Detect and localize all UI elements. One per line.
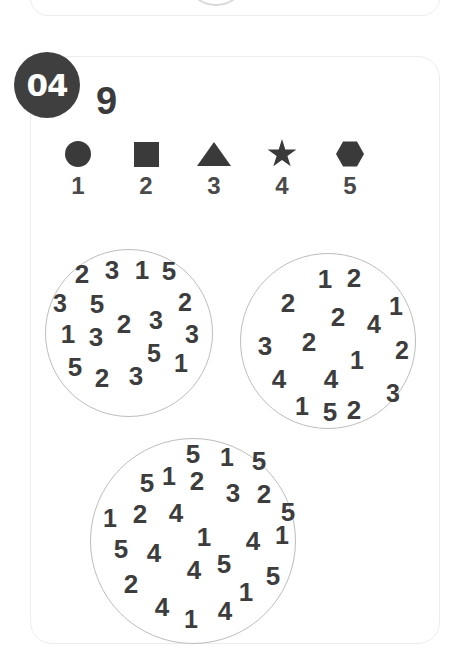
digit: 3 bbox=[89, 324, 103, 350]
shape-legend: 12345 bbox=[44, 138, 418, 200]
digit: 2 bbox=[281, 290, 295, 316]
digit: 2 bbox=[95, 365, 109, 391]
digit: 5 bbox=[140, 470, 154, 496]
digit: 4 bbox=[155, 594, 169, 620]
digit: 1 bbox=[61, 321, 75, 347]
square-icon-glyph bbox=[134, 142, 159, 167]
digit: 2 bbox=[124, 571, 138, 597]
digit: 4 bbox=[324, 366, 338, 392]
card-number-badge: 04 bbox=[14, 52, 80, 118]
digit: 5 bbox=[162, 258, 176, 284]
digit: 3 bbox=[105, 257, 119, 283]
digit: 3 bbox=[258, 333, 272, 359]
digit: 1 bbox=[197, 524, 211, 550]
triangle-icon bbox=[197, 138, 231, 170]
digit: 4 bbox=[169, 500, 183, 526]
digit: 5 bbox=[323, 399, 337, 425]
digit: 5 bbox=[252, 448, 266, 474]
legend-item-3: 3 bbox=[180, 138, 248, 200]
legend-item-5: 5 bbox=[316, 138, 384, 200]
digit: 1 bbox=[184, 607, 198, 632]
digit: 2 bbox=[257, 481, 271, 507]
digit: 2 bbox=[75, 261, 89, 287]
digit: 1 bbox=[103, 506, 117, 531]
legend-label: 2 bbox=[139, 172, 152, 200]
digit: 1 bbox=[350, 348, 364, 373]
number-group-right: 1222413221443152 bbox=[240, 253, 416, 429]
digit: 5 bbox=[266, 563, 280, 589]
digit: 5 bbox=[90, 291, 104, 317]
square-icon bbox=[134, 138, 159, 170]
legend-item-4: 4 bbox=[248, 138, 316, 200]
digit: 2 bbox=[178, 290, 192, 315]
legend-label: 3 bbox=[207, 172, 220, 200]
legend-item-1: 1 bbox=[44, 138, 112, 200]
digit: 5 bbox=[147, 341, 161, 366]
legend-item-2: 2 bbox=[112, 138, 180, 200]
circle-icon-glyph bbox=[65, 141, 91, 167]
digit: 5 bbox=[114, 536, 128, 562]
digit: 1 bbox=[318, 266, 332, 292]
digit: 2 bbox=[117, 311, 131, 337]
digit: 4 bbox=[218, 598, 232, 624]
digit: 1 bbox=[220, 445, 234, 470]
digit: 2 bbox=[347, 397, 361, 423]
digit: 3 bbox=[386, 381, 400, 406]
legend-label: 5 bbox=[343, 172, 356, 200]
digit: 2 bbox=[331, 304, 345, 330]
digit: 1 bbox=[135, 257, 149, 283]
digit: 1 bbox=[162, 464, 176, 489]
star-icon-glyph bbox=[267, 139, 297, 169]
digit: 2 bbox=[133, 501, 147, 527]
digit: 1 bbox=[389, 294, 403, 319]
digit: 2 bbox=[302, 329, 316, 355]
previous-card-partial bbox=[30, 0, 440, 16]
digit: 2 bbox=[190, 468, 204, 494]
digit: 2 bbox=[395, 338, 409, 363]
digit: 5 bbox=[68, 354, 82, 380]
hexagon-icon bbox=[336, 138, 364, 170]
hexagon-icon-glyph bbox=[336, 141, 364, 167]
star-icon bbox=[267, 138, 297, 170]
digit: 5 bbox=[186, 441, 200, 467]
circle-icon bbox=[65, 138, 91, 170]
digit: 1 bbox=[239, 579, 253, 605]
digit: 3 bbox=[185, 322, 199, 347]
legend-label: 4 bbox=[275, 172, 288, 200]
digit: 4 bbox=[272, 366, 286, 392]
number-group-left: 23153522313355123 bbox=[45, 249, 213, 417]
digit: 4 bbox=[187, 557, 201, 583]
target-number: 9 bbox=[96, 82, 117, 120]
digit: 5 bbox=[217, 551, 231, 577]
legend-label: 1 bbox=[71, 172, 84, 200]
digit: 2 bbox=[347, 265, 361, 291]
digit: 3 bbox=[53, 291, 67, 316]
number-group-bottom: 5155123212451415445521414 bbox=[90, 438, 296, 644]
digit: 3 bbox=[129, 363, 143, 389]
digit: 4 bbox=[246, 528, 260, 554]
triangle-icon-glyph bbox=[197, 142, 231, 166]
digit: 4 bbox=[147, 540, 161, 566]
digit: 1 bbox=[295, 394, 309, 419]
digit: 4 bbox=[367, 312, 381, 337]
digit: 3 bbox=[226, 480, 240, 506]
digit: 1 bbox=[174, 351, 188, 376]
digit: 1 bbox=[275, 523, 289, 548]
digit: 3 bbox=[149, 308, 163, 333]
